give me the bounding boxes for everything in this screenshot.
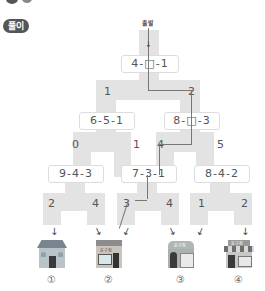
roof-icon bbox=[37, 240, 67, 248]
shop-2[interactable]: 문구점 bbox=[92, 240, 126, 270]
level2-number-3: 5 bbox=[217, 138, 224, 151]
choice-label-3: ③ bbox=[176, 274, 185, 285]
shop-sign: 문구점 bbox=[100, 247, 112, 253]
shop-4[interactable]: 문구점 bbox=[222, 240, 256, 270]
level3-number-3: 4 bbox=[166, 197, 173, 210]
header-number-icon bbox=[6, 0, 18, 4]
expression-text: 7-3-1 bbox=[132, 167, 166, 180]
arrow-down-left-icon: ↓ bbox=[120, 226, 132, 239]
level3-number-0: 2 bbox=[48, 197, 55, 210]
choice-label-2: ② bbox=[104, 274, 113, 285]
shop-sign: 문구점 bbox=[231, 240, 243, 246]
expression-box-l2-0: 9-4-3 bbox=[48, 165, 104, 183]
expression-text: 8-□-3 bbox=[173, 114, 210, 127]
expression-text: 6-5-1 bbox=[90, 114, 124, 127]
level2-number-0: 0 bbox=[72, 138, 79, 151]
expression-box-l1-right: 8-□-3 bbox=[164, 112, 220, 130]
arrow-down-icon: ↓ bbox=[241, 227, 249, 237]
expression-box-l2-2: 8-4-2 bbox=[194, 165, 250, 183]
level1-number-left: 1 bbox=[104, 85, 111, 98]
expression-box-root: 4-□-1 bbox=[121, 55, 179, 73]
expression-text: 9-4-3 bbox=[59, 167, 93, 180]
expression-box-l1-left: 6-5-1 bbox=[79, 112, 135, 130]
expression-box-l2-1: 7-3-1 bbox=[121, 165, 177, 183]
shop-1[interactable] bbox=[35, 240, 69, 270]
level3-number-1: 4 bbox=[92, 197, 99, 210]
solution-badge: 풀이 bbox=[3, 19, 29, 33]
header-number-icon-secondary bbox=[22, 0, 32, 3]
level3-number-4: 1 bbox=[198, 197, 205, 210]
start-label: 출발 bbox=[142, 18, 154, 27]
arrow-down-left-icon: ↓ bbox=[194, 226, 206, 239]
expression-text: 4-□-1 bbox=[131, 57, 168, 70]
path-arrow-icon: ↓ bbox=[145, 40, 152, 50]
arrow-down-right-icon: ↓ bbox=[92, 226, 104, 239]
arrow-down-icon: ↓ bbox=[50, 227, 58, 237]
choice-label-1: ① bbox=[47, 274, 56, 285]
level2-number-1: 1 bbox=[133, 138, 140, 151]
shop-3[interactable]: 문구점 bbox=[164, 240, 198, 270]
expression-text: 8-4-2 bbox=[205, 167, 239, 180]
choice-label-4: ④ bbox=[234, 274, 243, 285]
shop-sign: 문구점 bbox=[174, 242, 186, 248]
arrow-down-right-icon: ↓ bbox=[166, 226, 178, 239]
level3-number-5: 2 bbox=[241, 197, 248, 210]
